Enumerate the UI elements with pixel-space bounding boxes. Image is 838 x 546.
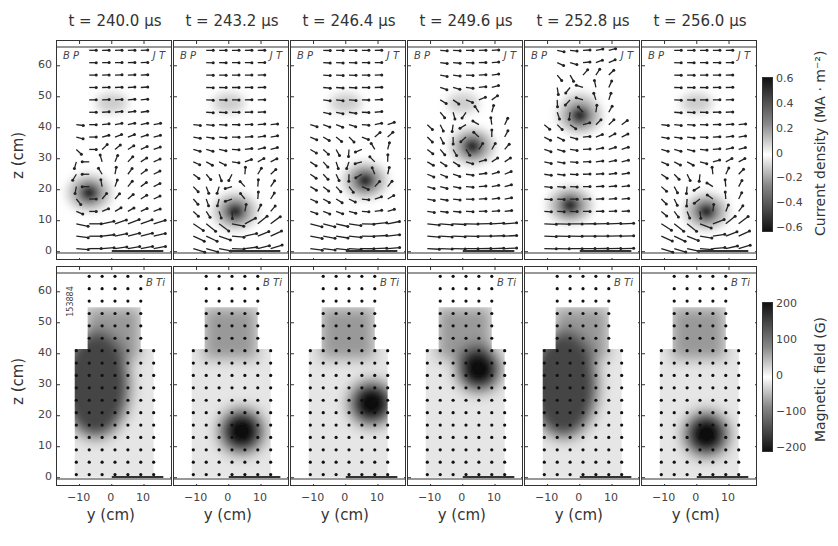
jt-label: J T [621,50,633,61]
bti-label: B Ti [731,277,750,288]
panel-title-5: t = 256.0 μs [641,12,759,30]
x-tick: 10 [716,491,740,504]
magnetic-field-panel-4: B Ti [524,266,640,486]
y-tick: 0 [28,470,52,483]
x-tick: −10 [652,491,676,504]
y-tick: 20 [28,182,52,195]
current-density-panel-0: B PJ T [56,40,172,260]
jt-label: J T [504,50,516,61]
z-axis-label: z (cm) [9,119,27,179]
x-tick: 10 [365,491,389,504]
bti-label: B Ti [614,277,633,288]
colorbar-tick: −0.2 [776,171,803,184]
colorbar-tick: 0.2 [776,122,794,135]
colorbar-label-field: Magnetic field (G) [812,317,828,442]
current-density-panel-4: B PJ T [524,40,640,260]
y-tick: 20 [28,408,52,421]
y-tick: 0 [28,244,52,257]
field-map-plot [174,267,289,486]
colorbar-label-current: Current density (MA · m⁻²) [812,51,828,236]
field-map-plot [408,267,523,486]
bti-label: B Ti [263,277,282,288]
jt-label: J T [738,50,750,61]
bp-label: B P [297,50,313,61]
y-tick: 60 [28,284,52,297]
y-tick: 60 [28,58,52,71]
current-density-panel-2: B PJ T [290,40,406,260]
current-density-colorbar [762,77,773,232]
x-tick: 0 [684,491,708,504]
current-density-panel-1: B PJ T [173,40,289,260]
y-axis-label: y (cm) [656,506,736,524]
y-tick: 50 [28,315,52,328]
colorbar-tick: −0.6 [776,221,803,234]
field-map-plot [642,267,757,486]
y-tick: 30 [28,377,52,390]
y-axis-label: y (cm) [422,506,502,524]
shot-number: 153884 [66,286,75,317]
y-tick: 40 [28,120,52,133]
panel-title-4: t = 252.8 μs [524,12,642,30]
jt-label: J T [153,50,165,61]
vector-field-plot [408,41,523,260]
panel-title-1: t = 243.2 μs [173,12,291,30]
y-tick: 10 [28,213,52,226]
vector-field-plot [57,41,172,260]
y-tick: 50 [28,89,52,102]
current-density-panel-3: B PJ T [407,40,523,260]
x-tick: 10 [599,491,623,504]
z-axis-label: z (cm) [9,345,27,405]
bti-label: B Ti [380,277,399,288]
vector-field-plot [525,41,640,260]
colorbar-tick: 0 [776,369,783,382]
panel-title-2: t = 246.4 μs [290,12,408,30]
x-tick: 0 [216,491,240,504]
bti-label: B Ti [146,277,165,288]
field-map-plot [291,267,406,486]
panel-title-3: t = 249.6 μs [407,12,525,30]
colorbar-tick: 200 [776,297,797,310]
bp-label: B P [531,50,547,61]
colorbar-tick: 0.4 [776,97,794,110]
magnetic-field-panel-3: B Ti [407,266,523,486]
y-tick: 40 [28,346,52,359]
panel-title-0: t = 240.0 μs [56,12,174,30]
bp-label: B P [63,50,79,61]
jt-label: J T [387,50,399,61]
x-tick: −10 [301,491,325,504]
magnetic-field-panel-5: B Ti [641,266,757,486]
x-tick: 10 [248,491,272,504]
vector-field-plot [291,41,406,260]
bp-label: B P [180,50,196,61]
bp-label: B P [648,50,664,61]
current-density-panel-5: B PJ T [641,40,757,260]
x-tick: 0 [99,491,123,504]
magnetic-field-colorbar [762,302,773,452]
vector-field-plot [642,41,757,260]
y-axis-label: y (cm) [305,506,385,524]
magnetic-field-panel-1: B Ti [173,266,289,486]
x-tick: −10 [535,491,559,504]
x-tick: 10 [131,491,155,504]
colorbar-tick: −0.4 [776,196,803,209]
colorbar-tick: 0 [776,147,783,160]
x-tick: 0 [333,491,357,504]
x-tick: 10 [482,491,506,504]
colorbar-tick: −200 [776,441,806,454]
magnetic-field-panel-2: B Ti [290,266,406,486]
field-map-plot [525,267,640,486]
magnetic-field-panel-0: B Ti153884 [56,266,172,486]
y-axis-label: y (cm) [188,506,268,524]
colorbar-tick: −100 [776,405,806,418]
y-axis-label: y (cm) [539,506,619,524]
jt-label: J T [270,50,282,61]
y-tick: 10 [28,439,52,452]
x-tick: 0 [567,491,591,504]
x-tick: 0 [450,491,474,504]
colorbar-tick: 0.6 [776,72,794,85]
y-tick: 30 [28,151,52,164]
x-tick: −10 [418,491,442,504]
bti-label: B Ti [497,277,516,288]
vector-field-plot [174,41,289,260]
colorbar-tick: 100 [776,333,797,346]
